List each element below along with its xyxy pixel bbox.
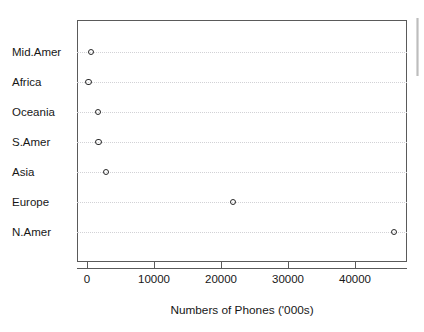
- gridline-row-0: [77, 52, 407, 53]
- y-axis-label-africa: Africa: [12, 76, 72, 88]
- x-tick-mark-3: [288, 262, 289, 269]
- x-tick-label-4: 40000: [320, 273, 390, 286]
- x-tick-mark-4: [355, 262, 356, 269]
- gridline-row-6: [77, 232, 407, 233]
- x-tick-label-1: 10000: [119, 273, 189, 286]
- gridline-row-2: [77, 112, 407, 113]
- gridline-row-1: [77, 82, 407, 83]
- x-tick-label-2: 20000: [186, 273, 256, 286]
- x-tick-mark-1: [154, 262, 155, 269]
- gridline-row-4: [77, 172, 407, 173]
- x-tick-label-0: 0: [52, 273, 122, 286]
- y-axis-label-oceania: Oceania: [12, 106, 72, 118]
- page-edge-artifact-line: [417, 18, 418, 76]
- gridline-row-5: [77, 202, 407, 203]
- gridline-row-3: [77, 142, 407, 143]
- x-tick-mark-0: [87, 262, 88, 269]
- plot-area-frame: [77, 20, 407, 262]
- y-axis-label-s-amer: S.Amer: [12, 136, 72, 148]
- y-axis-label-asia: Asia: [12, 166, 72, 178]
- x-tick-label-3: 30000: [253, 273, 323, 286]
- y-axis-label-europe: Europe: [12, 196, 72, 208]
- y-axis-label-n-amer: N.Amer: [12, 226, 72, 238]
- x-axis-title: Numbers of Phones ('000s): [77, 303, 407, 317]
- x-axis-line: [77, 268, 407, 269]
- data-point-s-amer: [95, 139, 101, 145]
- dot-plot-figure: Mid.Amer Africa Oceania S.Amer Asia Euro…: [0, 0, 424, 332]
- y-axis-label-mid-amer: Mid.Amer: [12, 46, 72, 58]
- x-tick-mark-2: [221, 262, 222, 269]
- data-point-africa: [85, 79, 91, 85]
